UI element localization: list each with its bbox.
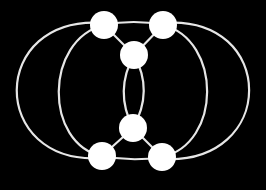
- node-f: [148, 143, 176, 171]
- node-d: [119, 114, 147, 142]
- nodes-layer: [88, 11, 177, 171]
- node-b: [149, 11, 177, 39]
- edge-a-e-outer: [17, 23, 104, 159]
- node-c: [120, 41, 148, 69]
- edge-a-e-inner: [59, 25, 104, 156]
- node-e: [88, 142, 116, 170]
- edge-b-f-inner: [162, 25, 207, 157]
- edge-b-f-outer: [162, 23, 249, 160]
- node-a: [90, 11, 118, 39]
- graph-diagram: [0, 0, 266, 190]
